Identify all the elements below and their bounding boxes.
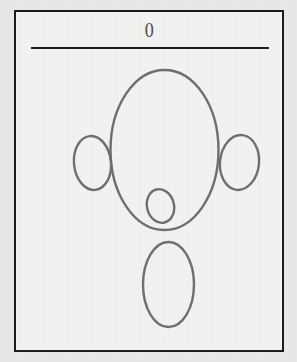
- nose-ellipse: [143, 186, 177, 226]
- figure-frame: 0: [14, 10, 284, 352]
- body-ellipse: [143, 242, 194, 327]
- right-ear-ellipse: [217, 133, 262, 192]
- face-diagram: [16, 12, 282, 350]
- head-ellipse: [111, 70, 219, 230]
- left-ear-ellipse: [71, 134, 113, 192]
